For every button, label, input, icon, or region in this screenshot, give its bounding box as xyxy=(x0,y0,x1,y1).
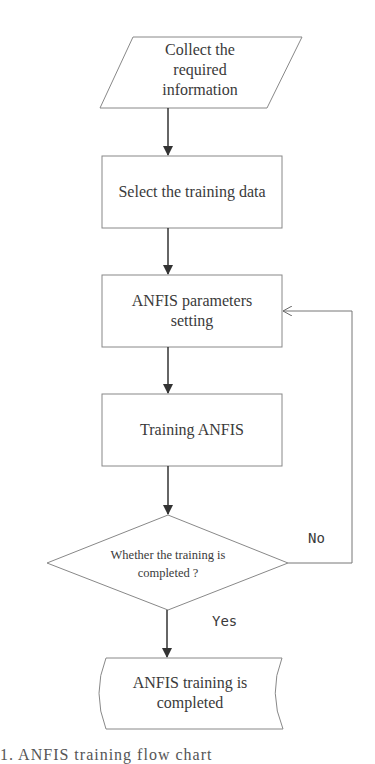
flowchart-canvas xyxy=(0,0,375,764)
node-decision-line-1: Whether the training is xyxy=(68,546,268,564)
node-done-label: ANFIS training is completed xyxy=(100,673,280,713)
node-collect-label: Collect the required information xyxy=(110,40,290,100)
figure-caption: 1. ANFIS training flow chart xyxy=(0,746,212,764)
edge-decision-params-no xyxy=(283,311,352,563)
node-decision-line-2: completed ? xyxy=(68,564,268,582)
node-params-line-1: ANFIS parameters xyxy=(102,291,282,311)
edge-label-yes: Yes xyxy=(212,613,237,629)
node-params-label: ANFIS parameters setting xyxy=(102,291,282,331)
edge-label-no: No xyxy=(308,530,325,546)
node-done-line-1: ANFIS training is xyxy=(100,673,280,693)
node-collect-line-1: Collect the xyxy=(110,40,290,60)
node-params-line-2: setting xyxy=(102,311,282,331)
node-train-line-1: Training ANFIS xyxy=(102,420,282,440)
node-train-label: Training ANFIS xyxy=(102,420,282,440)
node-select-label: Select the training data xyxy=(102,182,282,202)
node-decision-label: Whether the training is completed ? xyxy=(68,546,268,582)
node-select-line-1: Select the training data xyxy=(102,182,282,202)
node-collect-line-2: required xyxy=(110,60,290,80)
node-collect-line-3: information xyxy=(110,80,290,100)
node-done-line-2: completed xyxy=(100,693,280,713)
